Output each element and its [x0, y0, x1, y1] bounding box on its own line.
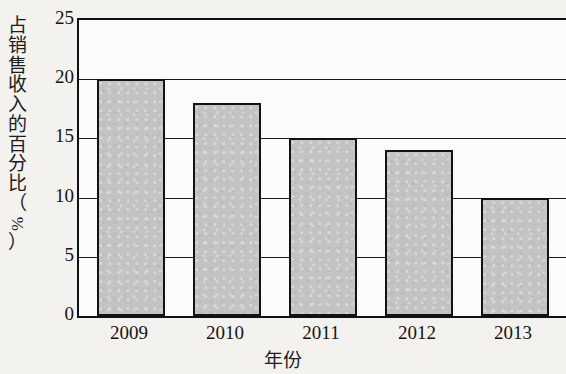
y-axis-title-char: 的 [8, 115, 27, 135]
bar-chart: 占 销 售 收 入 的 百 分 比 （ % ） 25 20 15 10 5 0 … [0, 0, 566, 374]
x-axis-tick-label-2013: 2013 [494, 322, 532, 344]
y-axis-tick-label: 5 [40, 244, 74, 266]
y-axis-title-char: 比 [8, 174, 27, 194]
y-axis-tick-label: 20 [40, 66, 74, 88]
bar-2011 [289, 138, 357, 316]
x-axis-tick-label-2010: 2010 [206, 322, 244, 344]
y-axis-title-char: 销 [8, 36, 27, 56]
bar-2012 [385, 150, 453, 316]
y-axis-title-paren-open: （ [8, 194, 27, 214]
y-axis-tick-label: 25 [40, 7, 74, 29]
y-axis-title-char: 分 [8, 154, 27, 174]
y-axis-title: 占 销 售 收 入 的 百 分 比 （ % ） [2, 16, 32, 326]
x-axis-tick-label-2011: 2011 [302, 322, 339, 344]
x-axis-title: 年份 [0, 345, 566, 372]
y-axis-title-char: 售 [8, 56, 27, 76]
bar-2013 [481, 198, 549, 316]
y-axis-title-unit: % [8, 216, 26, 230]
y-axis-title-paren-close: ） [8, 233, 27, 253]
y-axis-tick-label: 15 [40, 125, 74, 147]
y-axis-title-char: 入 [8, 95, 27, 115]
y-axis-title-char: 收 [8, 75, 27, 95]
y-axis-tick-labels: 25 20 15 10 5 0 [36, 0, 74, 374]
y-axis-tick-label: 0 [40, 303, 74, 325]
bar-2010 [193, 103, 261, 316]
x-axis-tick-label-2009: 2009 [110, 322, 148, 344]
bar-2009 [97, 79, 165, 316]
y-axis-title-char: 占 [8, 16, 27, 36]
plot-area [77, 18, 566, 318]
x-axis-tick-label-2012: 2012 [398, 322, 436, 344]
y-axis-title-char: 百 [8, 135, 27, 155]
y-axis-tick-label: 10 [40, 185, 74, 207]
